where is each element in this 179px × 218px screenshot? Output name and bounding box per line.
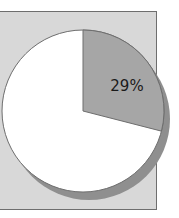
slice-label: 29% (109, 76, 145, 96)
pie-chart (0, 0, 179, 218)
